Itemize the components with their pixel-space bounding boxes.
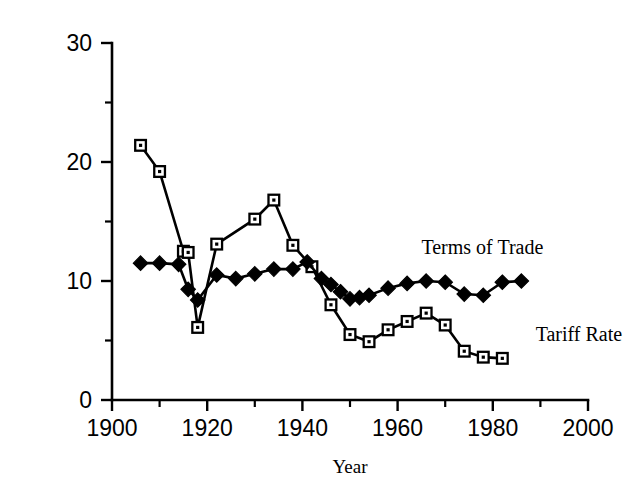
marker-square-center-dot <box>139 144 142 147</box>
marker-square-center-dot <box>196 326 199 329</box>
marker-open-square <box>439 319 452 332</box>
y-axis-tick-labels: 0102030 <box>66 30 92 413</box>
marker-open-square <box>496 352 509 365</box>
line-chart: 0102030 190019201940196019802000 Tariff … <box>40 16 627 486</box>
marker-open-square <box>210 238 223 251</box>
marker-open-square <box>363 335 376 348</box>
marker-square-center-dot <box>253 218 256 221</box>
marker-square-center-dot <box>482 356 485 359</box>
marker-square-center-dot <box>329 303 332 306</box>
marker-square-center-dot <box>406 320 409 323</box>
marker-square-center-dot <box>386 328 389 331</box>
marker-open-square <box>458 345 471 358</box>
chart-figure: 0102030 190019201940196019802000 Tariff … <box>40 16 627 486</box>
marker-filled-diamond <box>400 276 414 290</box>
marker-open-square <box>267 194 280 207</box>
marker-open-square <box>324 298 337 311</box>
marker-open-square <box>420 307 433 320</box>
marker-square-center-dot <box>367 340 370 343</box>
x-tick-label: 1900 <box>86 415 137 441</box>
marker-square-center-dot <box>444 323 447 326</box>
marker-filled-diamond <box>514 274 528 288</box>
x-tick-label: 1940 <box>277 415 328 441</box>
marker-filled-diamond <box>248 267 262 281</box>
marker-square-center-dot <box>463 350 466 353</box>
marker-open-square <box>401 315 414 328</box>
y-tick-label: 0 <box>79 387 92 413</box>
marker-filled-diamond <box>457 287 471 301</box>
axes-group <box>101 43 588 411</box>
marker-filled-diamond <box>171 257 185 271</box>
marker-filled-diamond <box>133 256 147 270</box>
x-tick-label: 1920 <box>182 415 233 441</box>
marker-open-square <box>344 328 357 341</box>
marker-square-center-dot <box>215 243 218 246</box>
marker-open-square <box>382 323 395 336</box>
marker-filled-diamond <box>267 262 281 276</box>
marker-square-center-dot <box>501 357 504 360</box>
marker-square-center-dot <box>348 333 351 336</box>
y-tick-label: 20 <box>66 149 92 175</box>
marker-open-square <box>286 239 299 252</box>
marker-filled-diamond <box>419 274 433 288</box>
marker-open-square <box>477 351 490 364</box>
marker-open-square <box>191 321 204 334</box>
marker-filled-diamond <box>286 262 300 276</box>
y-tick-label: 30 <box>66 30 92 56</box>
x-tick-label: 1960 <box>372 415 423 441</box>
x-tick-label: 1980 <box>467 415 518 441</box>
x-axis-ticks <box>112 400 588 411</box>
marker-square-center-dot <box>425 312 428 315</box>
x-axis-title: Year <box>332 456 368 477</box>
x-axis-tick-labels: 190019201940196019802000 <box>86 415 613 441</box>
marker-open-square <box>248 213 261 226</box>
series-label-terms-of-trade: Terms of Trade <box>421 236 543 258</box>
marker-square-center-dot <box>158 170 161 173</box>
series-label-tariff-rate: Tariff Rate <box>536 323 623 345</box>
marker-open-square <box>182 246 195 259</box>
y-tick-label: 10 <box>66 268 92 294</box>
marker-filled-diamond <box>229 271 243 285</box>
marker-filled-diamond <box>381 281 395 295</box>
marker-filled-diamond <box>438 275 452 289</box>
marker-open-square <box>153 165 166 178</box>
marker-square-center-dot <box>291 244 294 247</box>
y-axis-ticks <box>101 43 112 400</box>
marker-square-center-dot <box>187 251 190 254</box>
marker-square-center-dot <box>272 198 275 201</box>
marker-open-square <box>134 139 147 152</box>
x-tick-label: 2000 <box>562 415 613 441</box>
marker-filled-diamond <box>152 256 166 270</box>
